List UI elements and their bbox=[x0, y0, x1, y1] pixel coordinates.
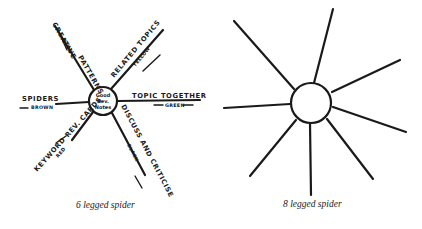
caption-6-legged-spider: 6 legged spider bbox=[76, 200, 135, 210]
label-discuss-and-criticise: DISCUSS AND CRITICISE bbox=[119, 103, 175, 199]
spider-diagrams-canvas: Good Rev. Notes CREATIVE BLUE PATTERNS R… bbox=[0, 0, 422, 229]
leg-topic-together bbox=[117, 100, 200, 101]
leg-spiders bbox=[56, 102, 89, 104]
label-patterns: PATTERNS bbox=[76, 54, 105, 96]
sublabel-green: GREEN bbox=[165, 103, 185, 108]
spider-body bbox=[291, 83, 331, 123]
leg-4 bbox=[333, 107, 406, 132]
leg-5 bbox=[327, 119, 373, 179]
underline-related bbox=[143, 55, 160, 71]
label-spiders: SPIDERS bbox=[22, 95, 59, 103]
eight-legged-spider bbox=[224, 9, 406, 195]
sublabel-brown: BROWN bbox=[31, 105, 53, 110]
leg-7 bbox=[250, 120, 296, 176]
underline-discuss bbox=[135, 176, 142, 188]
leg-8 bbox=[224, 104, 290, 108]
leg-2 bbox=[314, 9, 333, 83]
six-legged-spider: Good Rev. Notes CREATIVE BLUE PATTERNS R… bbox=[20, 19, 207, 199]
leg-3 bbox=[332, 60, 400, 92]
sublabel-black: BLACK bbox=[126, 143, 139, 162]
label-topic-together: TOPIC TOGETHER bbox=[132, 92, 207, 100]
leg-6 bbox=[310, 123, 311, 195]
leg-1 bbox=[234, 21, 294, 89]
caption-8-legged-spider: 8 legged spider bbox=[283, 199, 342, 209]
label-related-topics: RELATED TOPICS bbox=[109, 19, 162, 80]
